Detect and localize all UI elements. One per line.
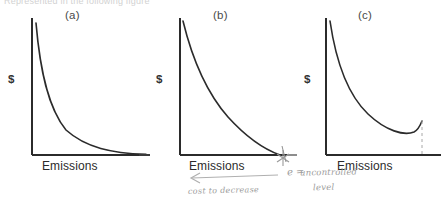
panel-c-label: (c) [358, 9, 372, 21]
annotation-level: level [313, 182, 334, 192]
panel-a-plot [0, 0, 148, 175]
annotation-cost-to-decrease: cost to decrease [188, 185, 259, 196]
panel-b-plot [148, 0, 296, 175]
panel-c-plot [296, 0, 443, 175]
panel-a: (a) $ Emissions [0, 0, 148, 175]
panel-c: (c) $ Emissions [296, 0, 443, 175]
panel-b-label: (b) [213, 9, 228, 21]
panel-c-y-axis-label: $ [304, 73, 310, 85]
panel-b-x-axis-label: Emissions [189, 159, 245, 173]
panel-a-x-axis-label: Emissions [42, 159, 98, 173]
panel-b-y-axis-label: $ [156, 73, 162, 85]
panel-a-label: (a) [65, 9, 80, 21]
figure-canvas: Represented in the following figure (a) … [0, 0, 443, 205]
panel-b: (b) $ Emissions [148, 0, 296, 175]
panel-a-y-axis-label: $ [8, 73, 14, 85]
panel-c-x-axis-label: Emissions [337, 159, 393, 173]
